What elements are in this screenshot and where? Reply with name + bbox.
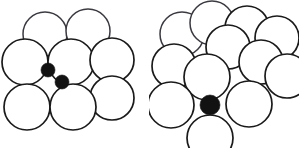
large-sphere bbox=[90, 76, 134, 120]
large-sphere bbox=[48, 39, 94, 85]
figure-canvas bbox=[0, 0, 299, 148]
large-sphere bbox=[226, 81, 272, 127]
large-sphere bbox=[2, 39, 48, 85]
large-sphere bbox=[149, 82, 194, 128]
large-sphere bbox=[50, 84, 96, 130]
close-packing-diagram bbox=[149, 0, 299, 148]
large-sphere bbox=[187, 115, 233, 148]
interstitial-sphere bbox=[55, 75, 69, 89]
panel-close-packing bbox=[149, 0, 299, 148]
square-packing-diagram bbox=[0, 0, 150, 148]
interstitial-sphere bbox=[41, 63, 55, 77]
large-sphere bbox=[4, 84, 50, 130]
interstitial-sphere bbox=[200, 95, 220, 115]
panel-square-packing bbox=[0, 0, 150, 148]
